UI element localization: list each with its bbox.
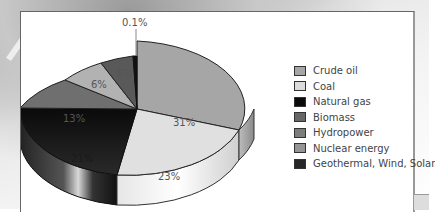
legend-swatch (294, 112, 306, 122)
legend-label: Geothermal, Wind, Solar (313, 158, 435, 169)
legend-item-hydropower: Hydropower (294, 125, 435, 141)
label-renewables: 0.1% (122, 17, 147, 28)
legend-swatch (294, 159, 306, 169)
label-nuclear: 6% (117, 68, 133, 79)
page-corner (414, 194, 429, 210)
legend-label: Crude oil (313, 65, 358, 76)
legend-swatch (294, 143, 306, 153)
legend-label: Coal (313, 81, 335, 92)
label-crude-oil: 31% (173, 117, 195, 128)
legend-label: Hydropower (313, 127, 374, 138)
legend-item-crude-oil: Crude oil (294, 63, 435, 79)
label-coal: 23% (158, 171, 180, 182)
legend-swatch (294, 97, 306, 107)
chart-frame: 0.1% 31% 23% 21% 13% 6% 6% Crude oil Coa… (20, 11, 415, 212)
legend-swatch (294, 128, 306, 138)
legend-item-renewables: Geothermal, Wind, Solar (294, 156, 435, 172)
legend-swatch (294, 66, 306, 76)
legend-label: Natural gas (313, 96, 371, 107)
legend-swatch (294, 81, 306, 91)
legend-item-coal: Coal (294, 79, 435, 95)
legend-item-natural-gas: Natural gas (294, 94, 435, 110)
label-hydropower: 6% (91, 79, 107, 90)
chart-legend: Crude oil Coal Natural gas Biomass Hydro… (294, 63, 435, 172)
legend-label: Nuclear energy (313, 143, 390, 154)
label-biomass: 13% (63, 113, 85, 124)
label-natural-gas: 21% (71, 153, 93, 164)
legend-item-biomass: Biomass (294, 110, 435, 126)
legend-label: Biomass (313, 112, 355, 123)
legend-item-nuclear: Nuclear energy (294, 141, 435, 157)
